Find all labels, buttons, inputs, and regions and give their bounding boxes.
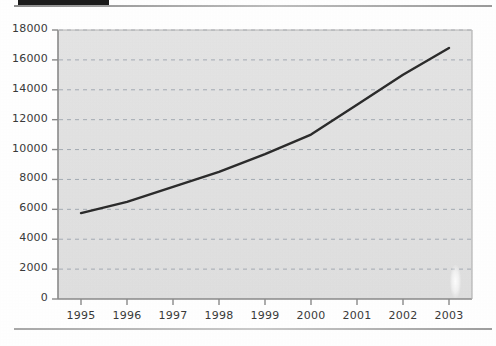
bottom-divider-rule (14, 328, 492, 330)
x-axis-ticks (81, 299, 449, 305)
x-tick-label: 1995 (58, 309, 104, 322)
y-axis-ticks (52, 30, 58, 299)
x-tick-label: 2003 (426, 309, 472, 322)
y-tick-label: 10000 (2, 142, 48, 155)
y-tick-label: 2000 (2, 261, 48, 274)
x-tick-label: 2000 (288, 309, 334, 322)
line-chart-plot (0, 0, 496, 346)
y-tick-label: 8000 (2, 171, 48, 184)
x-tick-label: 1999 (242, 309, 288, 322)
y-tick-label: 12000 (2, 112, 48, 125)
x-tick-label: 2001 (334, 309, 380, 322)
y-tick-label: 6000 (2, 201, 48, 214)
x-tick-label: 2002 (380, 309, 426, 322)
y-tick-label: 4000 (2, 231, 48, 244)
y-tick-label: 16000 (2, 52, 48, 65)
x-tick-label: 1997 (150, 309, 196, 322)
y-tick-label: 0 (2, 291, 48, 304)
x-tick-label: 1996 (104, 309, 150, 322)
chart-figure: 0200040006000800010000120001400016000180… (0, 0, 496, 346)
y-tick-label: 18000 (2, 22, 48, 35)
x-tick-label: 1998 (196, 309, 242, 322)
y-tick-label: 14000 (2, 82, 48, 95)
